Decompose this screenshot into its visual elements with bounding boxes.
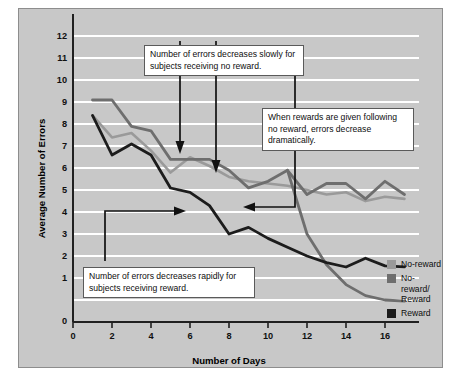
x-tick-0: 0 <box>65 331 81 341</box>
x-tick-6: 6 <box>182 331 198 341</box>
legend-item-reward: Reward <box>387 308 442 318</box>
x-tick-2: 2 <box>104 331 120 341</box>
chart-panel: 12 11 10 9 8 7 6 5 4 3 2 1 0 0 2 4 6 8 1… <box>18 8 443 368</box>
legend-swatch-no-reward <box>387 260 396 269</box>
y-tick-9: 9 <box>51 97 67 107</box>
annotation-rewards-given: When rewards are given following no rewa… <box>262 108 414 151</box>
x-tick-4: 4 <box>143 331 159 341</box>
x-tick-8: 8 <box>221 331 237 341</box>
y-tick-0: 0 <box>51 316 67 326</box>
legend-item-no-reward-reward: No-reward/ Reward <box>387 273 442 304</box>
y-tick-10: 10 <box>51 75 67 85</box>
y-tick-1: 1 <box>51 273 67 283</box>
legend-item-no-reward: No-reward <box>387 259 442 269</box>
y-tick-7: 7 <box>51 141 67 151</box>
y-tick-12: 12 <box>51 31 67 41</box>
annotation-rapid-decrease: Number of errors decreases rapidly for s… <box>83 267 255 298</box>
annotation-slow-decrease: Number of errors decreases slowly for su… <box>144 45 304 76</box>
y-tick-5: 5 <box>51 185 67 195</box>
y-tick-3: 3 <box>51 229 67 239</box>
y-tick-2: 2 <box>51 251 67 261</box>
y-tick-6: 6 <box>51 163 67 173</box>
legend-label-reward: Reward <box>401 308 431 318</box>
chart-figure: 12 11 10 9 8 7 6 5 4 3 2 1 0 0 2 4 6 8 1… <box>0 0 463 384</box>
x-axis-title: Number of Days <box>79 355 379 366</box>
x-tick-16: 16 <box>377 331 393 341</box>
legend-label-no-reward-reward: No-reward/ Reward <box>401 273 442 304</box>
y-tick-4: 4 <box>51 207 67 217</box>
x-tick-14: 14 <box>338 331 354 341</box>
y-tick-8: 8 <box>51 119 67 129</box>
legend-label-no-reward: No-reward <box>401 259 441 269</box>
legend-swatch-reward <box>387 309 396 318</box>
chart-legend: No-reward No-reward/ Reward Reward <box>387 259 442 323</box>
x-tick-10: 10 <box>260 331 276 341</box>
x-tick-12: 12 <box>299 331 315 341</box>
y-tick-11: 11 <box>51 53 67 63</box>
legend-swatch-no-reward-reward <box>387 274 396 283</box>
y-axis-title: Average Number of Errors <box>36 104 47 254</box>
